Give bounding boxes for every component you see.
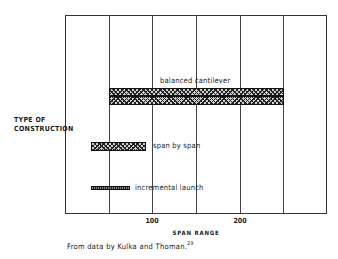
bar-label-span-by-span: span by span bbox=[153, 141, 200, 150]
gridline-200 bbox=[240, 15, 241, 214]
source-caption-text: From data by Kulka and Thoman. bbox=[67, 242, 187, 251]
bar-balanced-cantilever-divider bbox=[109, 95, 284, 97]
source-caption-ref: 29 bbox=[187, 240, 193, 246]
bar-span-by-span bbox=[91, 142, 146, 151]
y-axis-title-line1: TYPE OF bbox=[14, 116, 46, 125]
bar-label-balanced-cantilever: balanced cantilever bbox=[160, 76, 230, 85]
source-caption: From data by Kulka and Thoman.29 bbox=[67, 240, 194, 251]
gridline-250 bbox=[283, 15, 284, 214]
x-tick-200: 200 bbox=[233, 217, 246, 225]
bar-incremental-launch bbox=[91, 186, 130, 190]
x-axis-title: SPAN RANGE bbox=[173, 229, 220, 236]
bar-label-incremental-launch: incremental launch bbox=[135, 183, 204, 192]
x-tick-100: 100 bbox=[145, 217, 158, 225]
y-axis-title-line2: CONSTRUCTION bbox=[14, 125, 74, 134]
gridline-50 bbox=[109, 15, 110, 214]
